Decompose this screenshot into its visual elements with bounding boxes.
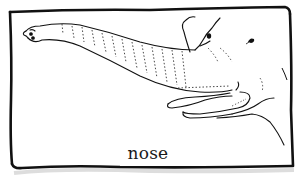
caption: nose <box>0 143 296 163</box>
illustration-card: nose <box>0 0 296 177</box>
head <box>182 17 220 52</box>
trunk <box>23 24 232 93</box>
eye-icon <box>207 33 211 39</box>
